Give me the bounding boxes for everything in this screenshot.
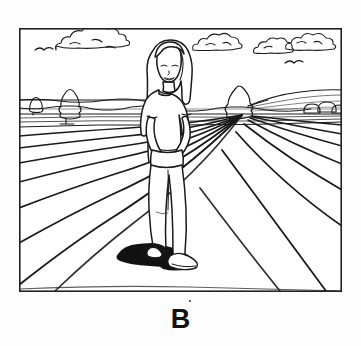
scan-speck [189,300,191,302]
figure-panel: B [0,0,361,346]
pant-seam [168,170,169,210]
neck [163,82,175,93]
panel-label: B [0,303,361,335]
line-drawing-illustration [0,0,361,346]
